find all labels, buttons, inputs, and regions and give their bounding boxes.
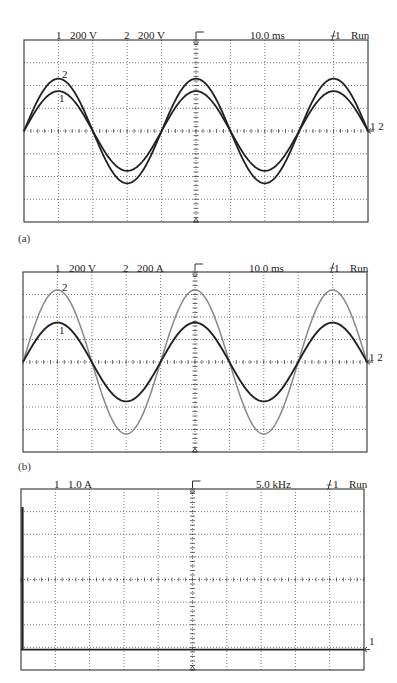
panel-c: 1 1.0 A 5.0 kHz 1 Run 1 xyxy=(0,0,397,683)
ch1-label: 1 xyxy=(54,479,60,490)
scope-screen-c xyxy=(0,0,397,683)
trigger-channel: 1 xyxy=(333,479,339,490)
frequency-span: 5.0 kHz xyxy=(256,479,291,490)
ch1-scale: 1.0 A xyxy=(68,479,92,490)
graticule xyxy=(21,480,364,670)
run-status: Run xyxy=(349,479,367,490)
ground-marker-label: 1 xyxy=(369,636,375,647)
